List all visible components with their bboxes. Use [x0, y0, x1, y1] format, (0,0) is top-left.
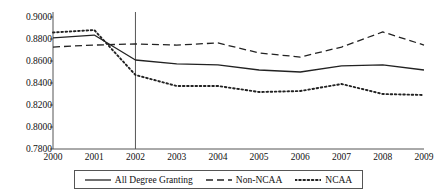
legend-item-ncaa: NCAA: [295, 175, 352, 185]
legend-swatch-dashed: [206, 176, 232, 184]
x-tick-label: 2006: [280, 152, 320, 163]
x-tick-label: 2004: [198, 152, 238, 163]
legend-label: All Degree Granting: [115, 175, 193, 185]
x-tick-label: 2009: [404, 152, 435, 163]
x-tick-label: 2000: [33, 152, 73, 163]
x-axis: 2000200120022003200420052006200720082009: [0, 0, 435, 196]
legend-label: Non-NCAA: [236, 175, 282, 185]
line-chart: 0.90000.88000.86000.84000.82000.80000.78…: [0, 0, 435, 196]
x-tick-label: 2005: [239, 152, 279, 163]
x-tick-label: 2002: [115, 152, 155, 163]
legend-swatch-solid: [85, 176, 111, 184]
legend-swatch-dotted: [295, 176, 321, 184]
x-tick-label: 2008: [363, 152, 403, 163]
legend-label: NCAA: [325, 175, 352, 185]
x-tick-label: 2001: [74, 152, 114, 163]
chart-legend: All Degree GrantingNon-NCAANCAA: [74, 170, 363, 189]
legend-item-non-ncaa: Non-NCAA: [206, 175, 282, 185]
x-tick-label: 2003: [157, 152, 197, 163]
x-tick-label: 2007: [322, 152, 362, 163]
legend-item-all-degree-granting: All Degree Granting: [85, 175, 193, 185]
